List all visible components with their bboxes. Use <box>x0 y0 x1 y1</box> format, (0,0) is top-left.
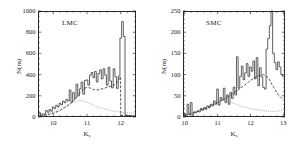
x-tick-label: 12 <box>247 120 254 127</box>
panel-title-smc: SMC <box>206 20 222 27</box>
x-tick-label: 10 <box>50 120 57 127</box>
y-tick-label: 100 <box>171 71 181 78</box>
y-tick-label: 150 <box>171 50 181 57</box>
panel-lmc: 02004006008001000101112 LMC Ks N(m) <box>0 0 147 154</box>
x-tick-label: 10 <box>181 120 188 127</box>
x-axis-title-lmc: Ks <box>84 131 91 139</box>
y-tick-label: 400 <box>26 71 36 78</box>
y-tick-label: 800 <box>26 29 36 36</box>
y-tick-label: 0 <box>177 114 180 121</box>
series-dotted <box>185 100 284 115</box>
x-tick-label: 13 <box>280 120 287 127</box>
y-axis-title-smc: N(m) <box>161 59 168 74</box>
series-dashed <box>185 75 284 116</box>
x-tick-label: 12 <box>118 120 125 127</box>
y-tick-label: 1000 <box>23 8 36 15</box>
panel-smc: 05010015020025010111213 SMC Ks N(m) <box>147 0 294 154</box>
figure-canvas: 02004006008001000101112 LMC Ks N(m) 0501… <box>0 0 294 154</box>
panel-title-lmc: LMC <box>62 20 78 27</box>
x-axis-title-smc: Ks <box>231 131 238 139</box>
y-tick-label: 600 <box>26 50 36 57</box>
x-tick-label: 11 <box>84 120 90 127</box>
y-tick-label: 200 <box>171 29 181 36</box>
y-tick-label: 0 <box>32 114 35 121</box>
y-tick-label: 200 <box>26 93 36 100</box>
series-dashed <box>40 77 135 116</box>
y-tick-label: 50 <box>174 93 181 100</box>
y-tick-label: 250 <box>171 8 181 15</box>
y-axis-title-lmc: N(m) <box>16 59 23 74</box>
x-tick-label: 11 <box>214 120 220 127</box>
series-solid-step <box>184 11 284 117</box>
